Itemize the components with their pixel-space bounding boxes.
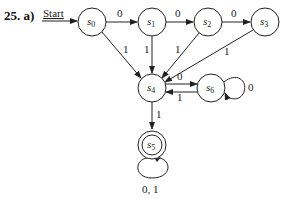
state-s2: s2 (194, 8, 222, 36)
edge-s1-s4: 1 (144, 36, 152, 73)
svg-text:1: 1 (175, 43, 181, 55)
edge-s6-self: 0 (224, 77, 254, 98)
state-s5-accepting: s5 (138, 131, 166, 159)
svg-text:0: 0 (248, 81, 254, 93)
edge-s2-s3: 0 (222, 7, 250, 22)
state-s4: s4 (138, 74, 166, 102)
svg-text:0: 0 (177, 70, 183, 82)
state-diagram: 25. a) Start 0 0 0 1 1 1 1 0 1 0 (0, 0, 296, 201)
svg-text:1: 1 (123, 43, 129, 55)
svg-text:1: 1 (156, 108, 162, 120)
edge-s4-s6: 0 (165, 70, 197, 84)
edge-s6-s4: 1 (166, 91, 197, 103)
edge-s1-s2: 0 (166, 7, 193, 22)
state-s6: s6 (197, 74, 225, 102)
figure-label: 25. a) (4, 8, 34, 23)
edge-s4-s5: 1 (152, 102, 162, 129)
svg-text:1: 1 (144, 43, 150, 55)
svg-text:1: 1 (177, 91, 183, 103)
state-s1: s1 (138, 8, 166, 36)
edge-s0-s1: 0 (106, 7, 137, 22)
state-s3: s3 (251, 8, 279, 36)
svg-text:0: 0 (231, 7, 237, 19)
svg-text:1: 1 (224, 45, 230, 57)
state-s0: s0 (78, 8, 106, 36)
svg-text:0: 0 (117, 7, 123, 19)
svg-text:0, 1: 0, 1 (142, 183, 159, 195)
edge-s5-self: 0, 1 (138, 157, 168, 195)
svg-text:0: 0 (175, 7, 181, 19)
edge-s0-s4: 1 (102, 32, 141, 78)
start-label: Start (43, 7, 64, 19)
